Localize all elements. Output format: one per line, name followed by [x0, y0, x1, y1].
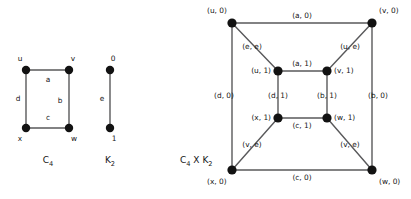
c4-vertex-label-x: x	[18, 134, 23, 143]
graph-diagram: u v w x a b c d C4 0 1 e K2	[0, 0, 411, 199]
graph-k2: 0 1 e K2	[100, 54, 117, 168]
c4-vertex-x	[22, 124, 30, 132]
k2-vertex-label-0: 0	[111, 54, 116, 63]
product-vertex-label-x0: (x, 0)	[207, 177, 227, 186]
c4-edge-label-c: c	[46, 113, 50, 122]
product-vertex-label-u1: (u, 1)	[251, 66, 271, 75]
product-vertex-u1	[273, 66, 282, 75]
product-edge-label-ue: (e, e)	[242, 42, 262, 51]
k2-caption: K2	[105, 155, 115, 168]
graph-product: (u, 0) (v, 0) (w, 0) (x, 0) (u, 1) (v, 1…	[180, 6, 400, 186]
product-vertex-label-v1: (v, 1)	[334, 66, 354, 75]
c4-caption: C4	[43, 155, 54, 168]
product-edge-label-b1: (b, 1)	[317, 91, 337, 100]
product-edge-label-d0: (d, 0)	[214, 91, 234, 100]
product-edge-label-d1: (d, 1)	[268, 91, 288, 100]
product-vertex-label-x1: (x, 1)	[251, 113, 271, 122]
k2-vertex-0	[106, 66, 114, 74]
product-vertex-u0	[227, 18, 236, 27]
product-vertex-x1	[273, 113, 282, 122]
k2-vertex-1	[106, 124, 114, 132]
product-edge-label-a1: (a, 1)	[292, 59, 312, 68]
product-edge-label-b0: (b, 0)	[368, 91, 388, 100]
c4-vertex-label-u: u	[18, 54, 23, 63]
product-vertex-w1	[322, 113, 331, 122]
product-vertex-x0	[227, 165, 236, 174]
c4-vertex-w	[65, 124, 73, 132]
product-vertex-w0	[367, 165, 376, 174]
c4-vertex-u	[22, 66, 30, 74]
product-edge-label-c1: (c, 1)	[292, 121, 311, 130]
c4-edge-label-d: d	[16, 94, 21, 103]
c4-vertex-label-w: w	[71, 134, 77, 143]
c4-edge-label-b: b	[58, 96, 63, 105]
c4-vertex-v	[65, 66, 73, 74]
product-edge-label-xe: (v, e)	[242, 140, 262, 149]
product-vertex-label-w0: (w, 0)	[379, 177, 400, 186]
product-edge-label-a0: (a, 0)	[292, 11, 312, 20]
c4-edge-label-a: a	[46, 75, 51, 84]
k2-vertex-label-1: 1	[112, 134, 117, 143]
c4-vertex-label-v: v	[71, 54, 76, 63]
product-edge-label-ve: (u, e)	[340, 42, 360, 51]
product-edge-label-we: (v, e)	[340, 140, 360, 149]
graph-c4: u v w x a b c d C4	[16, 54, 77, 168]
product-vertex-v1	[322, 66, 331, 75]
product-vertex-label-u0: (u, 0)	[207, 6, 227, 15]
k2-edge-label-e: e	[100, 94, 105, 103]
product-caption: C4 X K2	[180, 155, 213, 168]
figure-canvas: u v w x a b c d C4 0 1 e K2	[0, 0, 411, 199]
product-vertex-label-w1: (w, 1)	[334, 113, 355, 122]
product-vertex-label-v0: (v, 0)	[379, 6, 399, 15]
product-edge-label-c0: (c, 0)	[292, 173, 311, 182]
product-vertex-v0	[367, 18, 376, 27]
